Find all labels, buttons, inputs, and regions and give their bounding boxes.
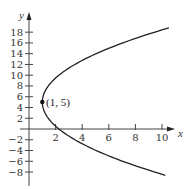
y-tick-labels: −8−6−4−224681012141618 xyxy=(8,27,23,178)
y-tick-label: −8 xyxy=(8,167,23,178)
x-tick-label: 10 xyxy=(156,132,169,143)
x-axis-label: x xyxy=(177,127,183,139)
y-tick-label: 12 xyxy=(10,59,23,70)
x-tick-label: 2 xyxy=(52,132,58,143)
y-axis-label: y xyxy=(18,9,24,21)
vertex-label: (1, 5) xyxy=(46,96,70,109)
y-tick-label: −4 xyxy=(8,145,23,156)
y-tick-label: 8 xyxy=(17,80,23,91)
x-axis-arrow-icon xyxy=(167,127,175,132)
x-tick-label: 8 xyxy=(132,132,138,143)
vertex-point xyxy=(40,100,44,104)
chart: y x −8−6−4−224681012141618 246810 (1, 5) xyxy=(0,0,187,189)
x-tick-label: 6 xyxy=(106,132,112,143)
x-tick-labels: 246810 xyxy=(52,132,168,143)
y-tick-label: −6 xyxy=(8,156,23,167)
y-tick-label: 16 xyxy=(10,37,23,48)
y-tick-label: 18 xyxy=(10,27,23,38)
y-axis-arrow-icon xyxy=(27,12,32,20)
y-tick-label: 6 xyxy=(17,91,23,102)
y-tick-label: 14 xyxy=(10,48,23,59)
x-tick-label: 4 xyxy=(79,132,85,143)
y-tick-label: −2 xyxy=(8,134,23,145)
y-tick-label: 4 xyxy=(17,102,23,113)
y-tick-label: 10 xyxy=(10,70,23,81)
y-tick-label: 2 xyxy=(17,113,23,124)
